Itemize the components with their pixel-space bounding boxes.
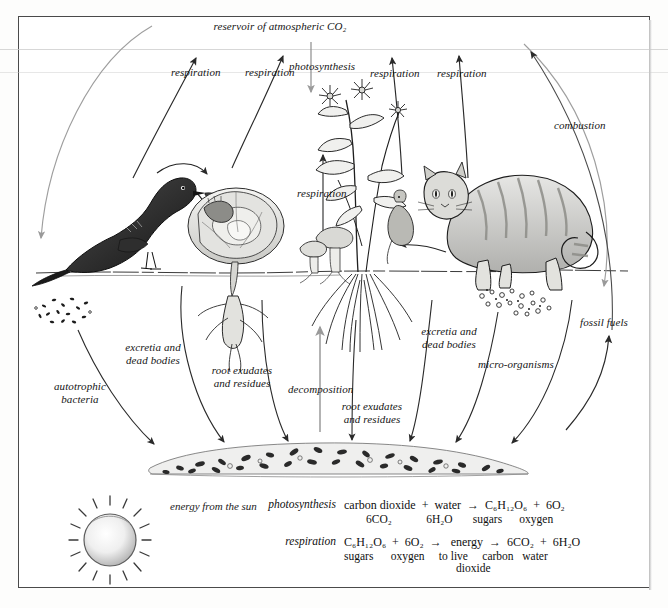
- excretia-left-label: excretia and dead bodies: [108, 341, 198, 366]
- respiration-label-fungi: respiration: [297, 187, 347, 200]
- cabbage-illustration: [188, 188, 284, 372]
- respiration-label-cat: respiration: [437, 67, 487, 80]
- equation-block: photosynthesis carbon dioxide + water → …: [250, 498, 580, 577]
- respiration-equation-line3: dioxide: [344, 562, 580, 574]
- microorganisms-label: micro-organisms: [478, 358, 554, 371]
- respiration-equation-name: respiration: [250, 535, 336, 547]
- fossil-fuels-arrow: [566, 336, 609, 430]
- photosynthesis-label: photosynthesis: [289, 60, 355, 73]
- excretia-right-label: excretia and dead bodies: [404, 325, 494, 350]
- atmosphere-label: reservoir of atmospheric CO₂: [190, 20, 370, 33]
- plant-roots: [312, 274, 412, 352]
- sun-illustration: [69, 496, 151, 584]
- decomposition-label: decomposition: [288, 383, 353, 396]
- respiration-equation-line1: C₆H₁₂O₆ + 6O₂ → energy → 6CO₂ + 6H₂O: [344, 535, 580, 550]
- arrow-plant-to-cat: [400, 245, 446, 252]
- cat-illustration: [418, 162, 598, 290]
- respiration-label-cabbage: respiration: [245, 66, 295, 79]
- energy-from-sun-label: energy from the sun: [170, 500, 257, 513]
- root-exudates-center-label: root exudates and residues: [324, 400, 420, 425]
- carbon-cycle-diagram: reservoir of atmospheric CO₂ photosynthe…: [0, 0, 668, 608]
- arrow-caterpillar-to-bird: [157, 164, 207, 174]
- root-exudates-left-label: root exudates and residues: [194, 364, 290, 389]
- fossil-fuels-label: fossil fuels: [580, 316, 628, 329]
- arrow-right-to-soil: [512, 300, 572, 443]
- photosynthesis-equation: photosynthesis carbon dioxide + water → …: [250, 498, 580, 525]
- combustion-label: combustion: [554, 119, 606, 132]
- autotrophic-bacteria-label: autotrophic bacteria: [38, 380, 122, 405]
- autotrophic-bacteria-illustration: [35, 297, 92, 323]
- soil-humus-illustration: [149, 443, 529, 477]
- respiration-label-plant: respiration: [370, 67, 420, 80]
- photosynthesis-equation-line1: carbon dioxide + water → C₆H₁₂O₆ + 6O₂: [344, 498, 580, 513]
- respiration-label-bird: respiration: [171, 66, 221, 79]
- respiration-equation-line2: sugars oxygen to live carbon water: [344, 550, 580, 562]
- respiration-equation: respiration C₆H₁₂O₆ + 6O₂ → energy → 6CO…: [250, 535, 580, 574]
- photosynthesis-arc-left: [41, 26, 152, 238]
- photosynthesis-equation-line2: 6CO₂ 6H₂O sugars oxygen: [344, 513, 580, 525]
- microorganisms-illustration: [480, 289, 551, 316]
- photosynthesis-equation-name: photosynthesis: [250, 498, 336, 510]
